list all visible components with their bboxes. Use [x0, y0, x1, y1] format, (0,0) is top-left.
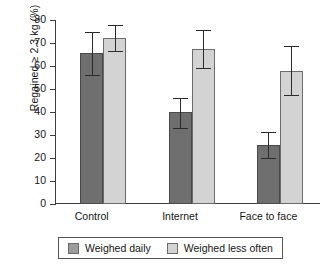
bar — [103, 38, 126, 204]
error-bar-cap-upper — [196, 30, 211, 31]
x-axis-category-label: Control — [75, 210, 109, 222]
error-bar-line — [92, 32, 93, 76]
bar — [192, 49, 215, 204]
y-axis-tick: 60 — [50, 66, 55, 67]
error-bar-cap-lower — [284, 95, 299, 96]
y-axis-tick-label: 80 — [34, 13, 46, 25]
legend-entry-weighed-less-often: Weighed less often — [167, 242, 273, 254]
y-axis-tick-label: 0 — [40, 197, 46, 209]
legend-entry-weighed-daily: Weighed daily — [68, 242, 151, 254]
error-bar-line — [291, 46, 292, 94]
error-bar-cap-lower — [261, 158, 276, 159]
plot-area: 80706050403020100 ControlInternetFace to… — [55, 20, 320, 204]
y-axis-tick-label: 70 — [34, 36, 46, 48]
error-bar-cap-upper — [173, 98, 188, 99]
x-axis-category-label: Internet — [162, 210, 198, 222]
error-bar-cap-lower — [196, 68, 211, 69]
bar-chart-figure: Regained ≥ 2.3 kg (%) 80706050403020100 … — [0, 0, 334, 274]
error-bar-cap-lower — [85, 75, 100, 76]
y-axis-tick: 0 — [50, 204, 55, 205]
x-axis-category-label: Face to face — [239, 210, 297, 222]
y-axis-tick-label: 60 — [34, 59, 46, 71]
legend-swatch-icon-series-1 — [68, 243, 79, 254]
error-bar-cap-lower — [108, 51, 123, 52]
error-bar-line — [268, 132, 269, 158]
y-axis-tick: 50 — [50, 89, 55, 90]
error-bar-cap-upper — [284, 46, 299, 47]
y-axis-tick-label: 40 — [34, 105, 46, 117]
y-axis-tick-label: 50 — [34, 82, 46, 94]
y-axis-line — [55, 20, 56, 205]
y-axis-tick-label: 20 — [34, 151, 46, 163]
y-axis-tick: 40 — [50, 112, 55, 113]
error-bar-line — [203, 30, 204, 68]
y-axis-tick: 70 — [50, 43, 55, 44]
y-axis-tick-label: 10 — [34, 174, 46, 186]
y-axis-tick: 30 — [50, 135, 55, 136]
y-axis-tick: 10 — [50, 181, 55, 182]
error-bar-cap-upper — [261, 132, 276, 133]
legend-label-series-1: Weighed daily — [85, 242, 151, 254]
y-axis-tick: 80 — [50, 20, 55, 21]
chart-legend: Weighed daily Weighed less often — [58, 237, 283, 259]
error-bar-line — [115, 25, 116, 51]
y-axis-tick: 20 — [50, 158, 55, 159]
y-axis-tick-label: 30 — [34, 128, 46, 140]
error-bar-line — [180, 98, 181, 128]
error-bar-cap-lower — [173, 128, 188, 129]
legend-label-series-2: Weighed less often — [184, 242, 273, 254]
legend-swatch-icon-series-2 — [167, 243, 178, 254]
error-bar-cap-upper — [108, 25, 123, 26]
error-bar-cap-upper — [85, 32, 100, 33]
